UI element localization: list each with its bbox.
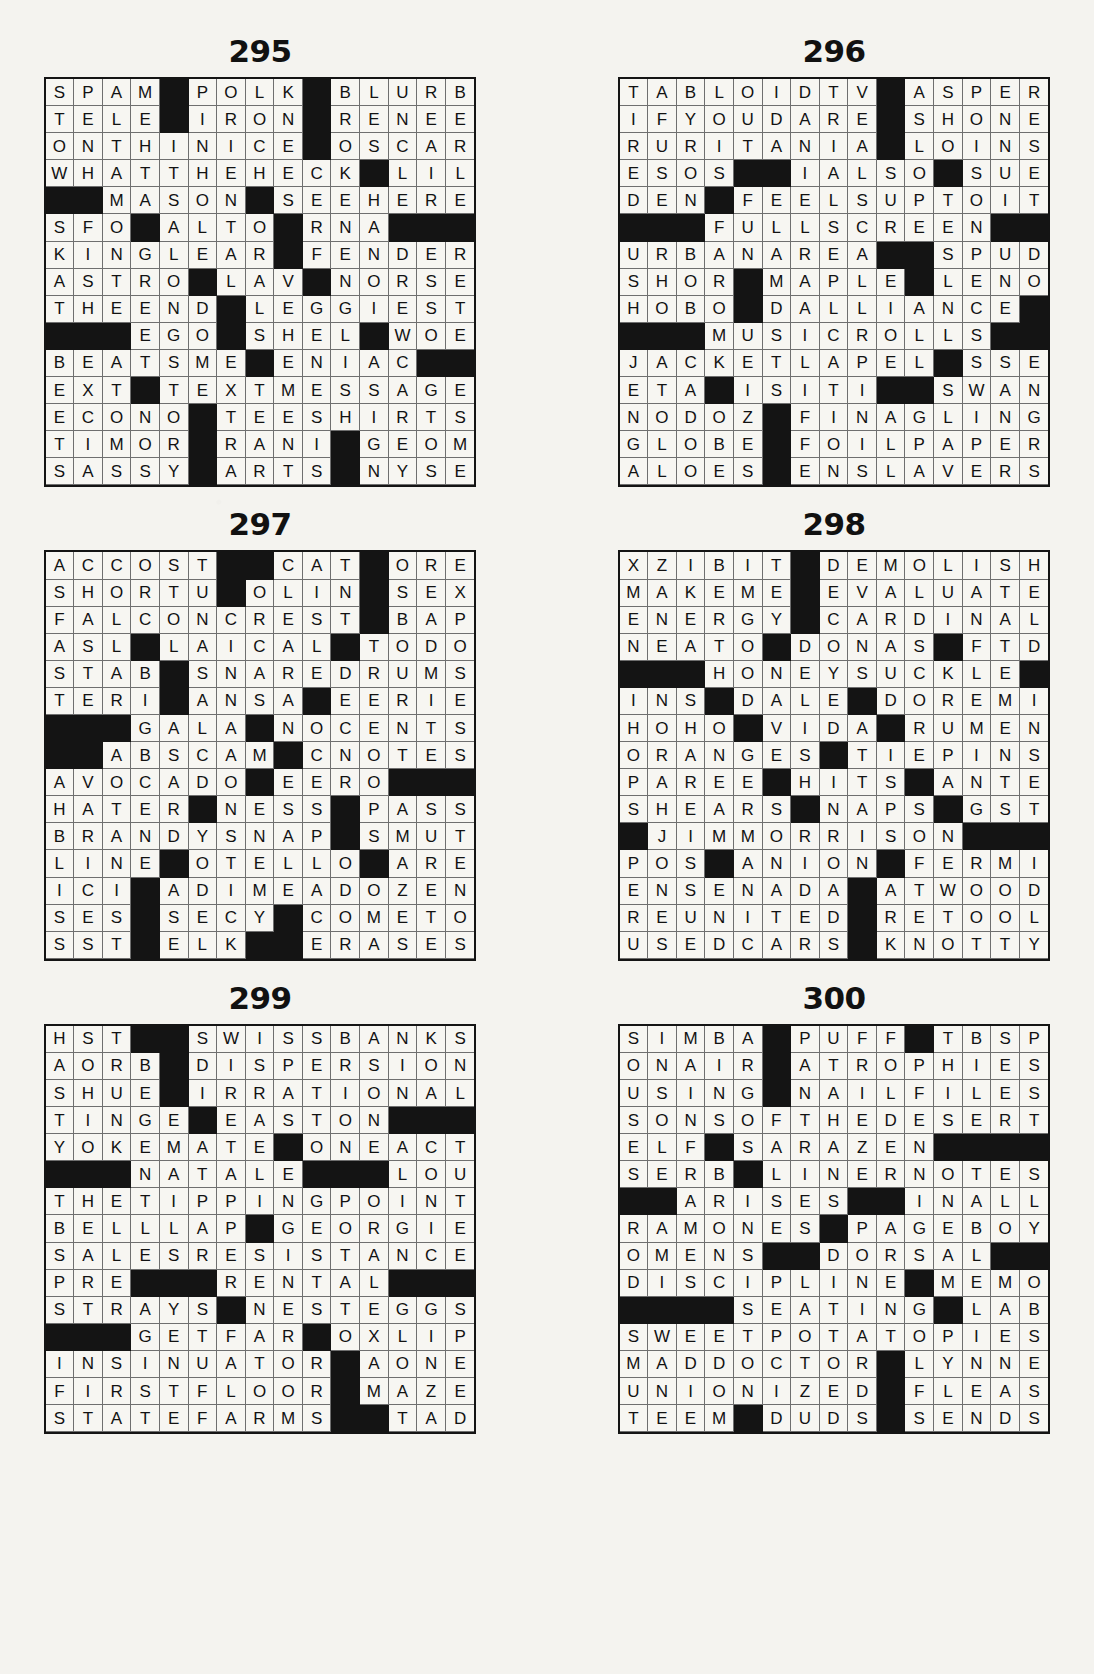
grid-letter-cell: D xyxy=(705,932,734,959)
grid-letter-cell: S xyxy=(303,1297,332,1324)
grid-letter-cell: A xyxy=(877,634,906,661)
puzzle-297: 297 ACCOSTCATORESHORTUOLINSEXFALCONCREST… xyxy=(40,509,480,960)
grid-letter-cell: O xyxy=(877,1053,906,1080)
grid-letter-cell: L xyxy=(131,1215,160,1242)
grid-letter-cell: S xyxy=(963,350,992,377)
grid-letter-cell: O xyxy=(934,133,963,160)
grid-letter-cell: M xyxy=(991,850,1020,877)
grid-letter-cell: E xyxy=(331,187,360,214)
grid-letter-cell: I xyxy=(677,1378,706,1405)
puzzle-296: 296 TABLOIDTVASPERIFYOUDARESHONERURITANI… xyxy=(614,36,1054,487)
grid-letter-cell: S xyxy=(46,1405,75,1432)
grid-block-cell xyxy=(877,133,906,160)
grid-block-cell xyxy=(131,905,160,932)
grid-letter-cell: O xyxy=(905,688,934,715)
grid-letter-cell: O xyxy=(74,1134,103,1161)
grid-letter-cell: M xyxy=(734,580,763,607)
grid-letter-cell: E xyxy=(991,79,1020,106)
grid-letter-cell: T xyxy=(160,1378,189,1405)
grid-letter-cell: N xyxy=(331,742,360,769)
grid-letter-cell: T xyxy=(848,742,877,769)
grid-letter-cell: O xyxy=(791,1324,820,1351)
grid-letter-cell: N xyxy=(934,823,963,850)
grid-letter-cell: N xyxy=(905,1134,934,1161)
grid-letter-cell: L xyxy=(246,1161,275,1188)
grid-letter-cell: E xyxy=(991,296,1020,323)
grid-block-cell xyxy=(620,323,649,350)
grid-letter-cell: A xyxy=(189,1134,218,1161)
grid-letter-cell: M xyxy=(877,552,906,579)
grid-letter-cell: D xyxy=(331,661,360,688)
grid-letter-cell: R xyxy=(246,1405,275,1432)
grid-letter-cell: S xyxy=(446,796,475,823)
solutions-page: 295 SPAMPOLKBLURBTELEIRONRENEEONTHINICEO… xyxy=(0,0,1094,1674)
grid-block-cell xyxy=(417,1270,446,1297)
grid-letter-cell: L xyxy=(446,160,475,187)
grid-letter-cell: D xyxy=(763,296,792,323)
grid-letter-cell: L xyxy=(246,296,275,323)
grid-letter-cell: R xyxy=(246,242,275,269)
grid-block-cell xyxy=(160,1080,189,1107)
grid-letter-cell: I xyxy=(763,79,792,106)
grid-letter-cell: E xyxy=(189,377,218,404)
grid-block-cell xyxy=(620,823,649,850)
grid-letter-cell: U xyxy=(734,214,763,241)
grid-letter-cell: O xyxy=(160,269,189,296)
grid-letter-cell: D xyxy=(734,688,763,715)
grid-letter-cell: A xyxy=(103,661,132,688)
grid-letter-cell: T xyxy=(331,1297,360,1324)
grid-letter-cell: A xyxy=(389,1134,418,1161)
grid-letter-cell: E xyxy=(189,905,218,932)
grid-letter-cell: U xyxy=(620,932,649,959)
grid-letter-cell: P xyxy=(820,269,849,296)
grid-letter-cell: D xyxy=(877,1107,906,1134)
grid-letter-cell: E xyxy=(417,742,446,769)
grid-letter-cell: T xyxy=(791,1351,820,1378)
grid-letter-cell: L xyxy=(934,552,963,579)
grid-letter-cell: E xyxy=(446,688,475,715)
grid-block-cell xyxy=(446,350,475,377)
grid-letter-cell: T xyxy=(160,580,189,607)
grid-letter-cell: L xyxy=(763,1161,792,1188)
grid-letter-cell: N xyxy=(274,1270,303,1297)
grid-letter-cell: D xyxy=(620,187,649,214)
grid-letter-cell: E xyxy=(963,1270,992,1297)
grid-block-cell xyxy=(131,634,160,661)
grid-letter-cell: E xyxy=(705,878,734,905)
grid-letter-cell: E xyxy=(217,350,246,377)
grid-letter-cell: I xyxy=(791,160,820,187)
grid-letter-cell: T xyxy=(389,1405,418,1432)
grid-letter-cell: T xyxy=(446,1134,475,1161)
grid-letter-cell: A xyxy=(705,242,734,269)
grid-letter-cell: D xyxy=(1020,878,1049,905)
grid-block-cell xyxy=(734,1161,763,1188)
grid-block-cell xyxy=(131,1026,160,1053)
grid-letter-cell: R xyxy=(274,1324,303,1351)
grid-letter-cell: U xyxy=(877,187,906,214)
grid-letter-cell: E xyxy=(360,106,389,133)
puzzle-row-3: 299 HSTSWISSBANKSAORBDISPERSIONSHUEIRRAT… xyxy=(40,983,1054,1434)
grid-block-cell xyxy=(677,1297,706,1324)
grid-letter-cell: F xyxy=(848,1026,877,1053)
grid-letter-cell: A xyxy=(991,377,1020,404)
grid-letter-cell: R xyxy=(620,905,649,932)
grid-letter-cell: F xyxy=(217,1324,246,1351)
grid-letter-cell: M xyxy=(991,1270,1020,1297)
grid-letter-cell: P xyxy=(620,769,649,796)
grid-letter-cell: O xyxy=(677,458,706,485)
grid-letter-cell: R xyxy=(877,214,906,241)
grid-letter-cell: E xyxy=(417,242,446,269)
grid-letter-cell: R xyxy=(1020,431,1049,458)
grid-letter-cell: I xyxy=(963,133,992,160)
grid-block-cell xyxy=(877,79,906,106)
grid-letter-cell: I xyxy=(877,742,906,769)
grid-letter-cell: R xyxy=(131,580,160,607)
grid-letter-cell: N xyxy=(763,661,792,688)
grid-letter-cell: C xyxy=(820,323,849,350)
grid-letter-cell: E xyxy=(274,1161,303,1188)
grid-letter-cell: O xyxy=(103,404,132,431)
grid-block-cell xyxy=(620,214,649,241)
grid-block-cell xyxy=(905,1026,934,1053)
grid-block-cell xyxy=(877,106,906,133)
grid-letter-cell: U xyxy=(877,661,906,688)
